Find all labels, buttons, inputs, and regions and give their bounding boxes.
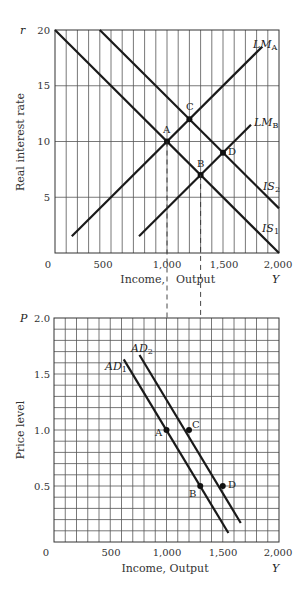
bottom-x-tick-0: 0 (43, 547, 49, 558)
top-y-axis-label: Real interest rate (14, 93, 27, 191)
bottom-x-axis-label: Income, Output (121, 562, 209, 575)
bottom-y-axis-label: Price level (14, 400, 27, 459)
point-c-top (186, 116, 192, 122)
top-y-tick-15: 15 (37, 80, 50, 91)
point-b-bottom (197, 483, 203, 489)
bottom-x-tick-500: 500 (101, 547, 120, 558)
top-x-symbol: Y (272, 273, 281, 286)
point-b-label-bottom: B (189, 488, 196, 499)
bottom-y-symbol: P (19, 312, 28, 325)
top-y-tick-5: 5 (44, 192, 50, 203)
point-a-bottom (164, 427, 170, 433)
top-x-tick-2000: 2,000 (264, 259, 293, 270)
top-x-tick-0: 0 (45, 259, 51, 270)
is1-label: IS1 (261, 222, 279, 236)
top-x-axis-label-right: Output (176, 273, 216, 286)
bottom-chart: A C B D AD1 AD2 2.0 1.5 1.0 0.5 P Price … (14, 312, 292, 575)
bottom-x-tick-2000: 2,000 (264, 547, 293, 558)
top-y-tick-20: 20 (37, 25, 50, 36)
is2-label: IS2 (262, 180, 280, 194)
point-d-bottom (220, 483, 226, 489)
point-d-label-bottom: D (228, 479, 236, 490)
bottom-y-tick-0-5: 0.5 (34, 481, 50, 492)
top-y-symbol: r (20, 24, 26, 37)
point-d-label-top: D (228, 146, 236, 157)
point-c-label-bottom: C (192, 419, 200, 430)
top-x-tick-1500: 1,500 (210, 259, 239, 270)
bottom-x-tick-1500: 1,500 (209, 547, 238, 558)
is-lm-ad-figure: A B C D LMA LMB IS2 IS1 20 15 10 5 r Rea… (0, 0, 307, 593)
point-a-label-top: A (162, 124, 171, 135)
top-x-tick-500: 500 (93, 259, 112, 270)
bottom-y-tick-1: 1.0 (34, 425, 50, 436)
point-b-label-top: B (197, 158, 204, 169)
lmb-label: LMB (253, 116, 279, 130)
top-x-axis-label-left: Income, (120, 273, 165, 286)
bottom-y-tick-2: 2.0 (34, 313, 50, 324)
point-c-label-top: C (186, 101, 194, 112)
bottom-y-tick-1-5: 1.5 (34, 369, 50, 380)
bottom-x-tick-1000: 1,000 (153, 547, 182, 558)
top-chart: A B C D LMA LMB IS2 IS1 20 15 10 5 r Rea… (14, 24, 292, 286)
top-y-tick-10: 10 (37, 136, 50, 147)
point-d-top (220, 150, 226, 156)
lma-label: LMA (252, 38, 278, 52)
point-a-label-bottom: A (154, 427, 163, 438)
bottom-x-symbol: Y (272, 562, 281, 575)
